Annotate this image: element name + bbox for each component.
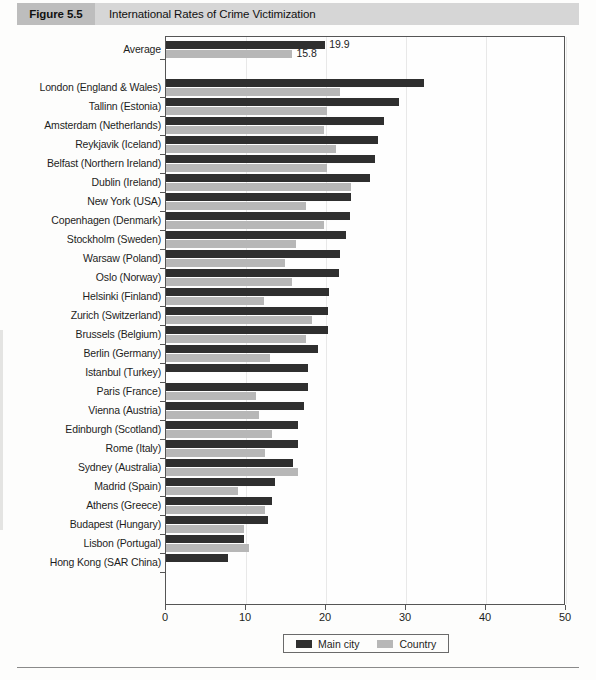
legend-swatch-country — [377, 640, 393, 648]
bar-row: Istanbul (Turkey) — [0, 363, 596, 382]
legend-label-main-city: Main city — [318, 638, 359, 650]
bar-row: Warsaw (Poland) — [0, 249, 596, 268]
figure-title: International Rates of Crime Victimizati… — [95, 3, 579, 25]
x-axis-tick — [245, 605, 246, 610]
bar-row-label: London (England & Wales) — [39, 78, 161, 97]
bar-row-label: Belfast (Northern Ireland) — [47, 154, 161, 173]
bar-row: Edinburgh (Scotland) — [0, 420, 596, 439]
bar-value-main-city: 19.9 — [325, 39, 349, 49]
bar-row: Rome (Italy) — [0, 439, 596, 458]
bar-country — [166, 449, 265, 457]
bar-main-city — [166, 383, 308, 391]
legend-entry-country: Country — [377, 638, 436, 650]
bar-country — [166, 126, 324, 134]
bar-row-label: Brussels (Belgium) — [76, 325, 161, 344]
x-axis-tick — [405, 605, 406, 610]
page-bottom-rule — [17, 667, 579, 668]
bar-row-label: Rome (Italy) — [106, 439, 161, 458]
bar-main-city — [166, 421, 298, 429]
bar-row-label: Average — [123, 40, 161, 59]
bar-row: Dublin (Ireland) — [0, 173, 596, 192]
bar-row-label: Lisbon (Portugal) — [84, 534, 161, 553]
bar-row-label: Athens (Greece) — [86, 496, 161, 515]
x-axis-tick — [165, 605, 166, 610]
bar-row: Paris (France) — [0, 382, 596, 401]
bar-row-label: Paris (France) — [97, 382, 161, 401]
bar-country — [166, 354, 270, 362]
bar-row: Lisbon (Portugal) — [0, 534, 596, 553]
bar-row: Sydney (Australia) — [0, 458, 596, 477]
bar-country — [166, 259, 285, 267]
bar-main-city — [166, 440, 298, 448]
legend-entry-main-city: Main city — [296, 638, 359, 650]
bar-row: Helsinki (Finland) — [0, 287, 596, 306]
bar-main-city — [166, 155, 375, 163]
bar-main-city — [166, 326, 328, 334]
bar-main-city — [166, 117, 384, 125]
bar-row-label: Dublin (Ireland) — [92, 173, 161, 192]
bar-row-label: Reykjavik (Iceland) — [75, 135, 161, 154]
bar-main-city — [166, 212, 350, 220]
bar-country — [166, 468, 298, 476]
bar-row: Vienna (Austria) — [0, 401, 596, 420]
x-axis: 01020304050 — [165, 605, 565, 627]
bar-row: London (England & Wales) — [0, 78, 596, 97]
bar-row-label: Tallinn (Estonia) — [89, 97, 161, 116]
bar-row: New York (USA) — [0, 192, 596, 211]
bar-row-average: Average19.915.8 — [0, 40, 596, 59]
bar-row: Stockholm (Sweden) — [0, 230, 596, 249]
bar-row: Reykjavik (Iceland) — [0, 135, 596, 154]
bar-row: Berlin (Germany) — [0, 344, 596, 363]
bar-country — [166, 430, 272, 438]
x-axis-tick — [485, 605, 486, 610]
bar-row: Oslo (Norway) — [0, 268, 596, 287]
x-axis-tick — [565, 605, 566, 610]
bar-main-city — [166, 307, 328, 315]
bar-country — [166, 525, 244, 533]
x-axis-tick-label: 30 — [399, 611, 411, 623]
bar-row-label: Helsinki (Finland) — [83, 287, 161, 306]
x-axis-tick-label: 0 — [162, 611, 168, 623]
bar-row: Belfast (Northern Ireland) — [0, 154, 596, 173]
bar-row: Copenhagen (Denmark) — [0, 211, 596, 230]
legend-swatch-main-city — [296, 640, 312, 648]
bar-country — [166, 487, 238, 495]
bar-country — [166, 392, 256, 400]
bar-country — [166, 107, 327, 115]
bar-main-city — [166, 516, 268, 524]
y-axis-tick — [160, 572, 165, 573]
bar-country — [166, 506, 265, 514]
bar-row: Tallinn (Estonia) — [0, 97, 596, 116]
bar-country — [166, 202, 306, 210]
bar-country — [166, 183, 351, 191]
bar-country — [166, 164, 327, 172]
bar-main-city — [166, 535, 244, 543]
bar-row-label: Sydney (Australia) — [78, 458, 161, 477]
bar-row-label: Budapest (Hungary) — [70, 515, 161, 534]
bar-row-label: Oslo (Norway) — [96, 268, 161, 287]
bar-main-city — [166, 250, 340, 258]
bar-country — [166, 278, 292, 286]
bar-row-label: Warsaw (Poland) — [83, 249, 161, 268]
bar-country — [166, 88, 340, 96]
bar-row-label: New York (USA) — [87, 192, 161, 211]
bar-row: Hong Kong (SAR China) — [0, 553, 596, 572]
bar-row: Amsterdam (Netherlands) — [0, 116, 596, 135]
bar-country — [166, 544, 249, 552]
bar-main-city — [166, 136, 378, 144]
bar-country — [166, 316, 312, 324]
bar-country — [166, 335, 306, 343]
bar-row-label: Madrid (Spain) — [94, 477, 161, 496]
bar-main-city — [166, 364, 308, 372]
bar-main-city — [166, 345, 318, 353]
bar-main-city — [166, 231, 346, 239]
y-axis-tick — [160, 59, 165, 60]
figure-header: Figure 5.5 International Rates of Crime … — [17, 3, 579, 25]
bar-row-label: Hong Kong (SAR China) — [50, 553, 161, 572]
bar-main-city — [166, 497, 272, 505]
bar-row-label: Berlin (Germany) — [83, 344, 161, 363]
x-axis-tick-label: 20 — [319, 611, 331, 623]
bar-main-city — [166, 459, 293, 467]
bar-row-label: Stockholm (Sweden) — [67, 230, 161, 249]
chart-legend: Main city Country — [283, 634, 449, 653]
